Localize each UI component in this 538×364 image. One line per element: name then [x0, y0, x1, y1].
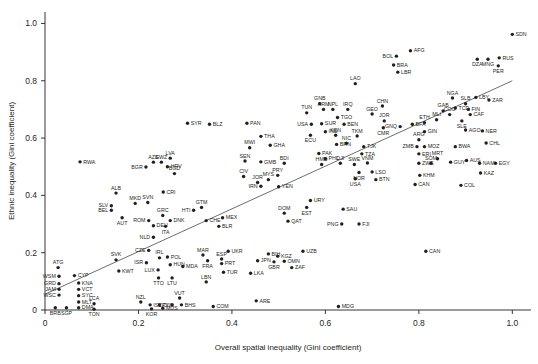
data-point [148, 303, 151, 306]
data-point [362, 145, 365, 148]
data-point-label: ALB [111, 185, 121, 191]
data-point [178, 296, 181, 299]
data-point-label: MEX [226, 214, 238, 220]
data-point [381, 104, 384, 107]
data-point [449, 160, 452, 163]
data-point [200, 206, 203, 209]
data-point-label: LBR [401, 69, 411, 75]
data-point-label: TTO [153, 280, 164, 286]
data-point-label: ATG [53, 259, 64, 265]
data-point-label: BLZ [213, 121, 223, 127]
data-point [147, 219, 150, 222]
data-point [320, 163, 323, 166]
data-point-label: NAM [483, 160, 495, 166]
data-point-label: UZB [306, 248, 317, 254]
x-tick-label: 1.0 [506, 318, 518, 328]
data-point [283, 211, 286, 214]
data-point [186, 121, 189, 124]
data-point-label: IRN [249, 183, 258, 189]
data-point [180, 303, 183, 306]
data-point [487, 98, 490, 101]
y-tick-label: 0 [32, 305, 37, 315]
data-point-label: SLB [461, 95, 471, 101]
data-point-label: CHL [489, 140, 500, 146]
data-point [208, 123, 211, 126]
data-point [222, 270, 225, 273]
data-point [340, 222, 343, 225]
data-point-label: HMD [316, 156, 328, 162]
data-point [220, 257, 223, 260]
data-point [454, 145, 457, 148]
data-point-label: NIC [342, 135, 351, 141]
data-point-label: ECU [305, 137, 316, 143]
data-point-label: BGD [169, 165, 181, 171]
data-point-label: PER [493, 68, 504, 74]
data-point [481, 129, 484, 132]
data-point-label: KHM [423, 172, 435, 178]
data-point-label: CAN [429, 248, 440, 254]
data-point-label: TON [89, 311, 100, 317]
data-point [370, 170, 373, 173]
data-point-label: BEN [347, 121, 358, 127]
data-point [336, 116, 339, 119]
data-point [272, 260, 275, 263]
data-point-label: BLR [222, 223, 232, 229]
data-point-label: RWA [83, 159, 96, 165]
data-point [355, 134, 358, 137]
data-point [476, 58, 479, 61]
x-tick-label: 0.2 [133, 318, 145, 328]
data-point-label: ROM [133, 217, 145, 223]
data-point-label: IRL [155, 249, 163, 255]
data-point-label: MOZ [428, 143, 441, 149]
data-point-label: ZAR [492, 97, 503, 103]
data-point [324, 130, 327, 133]
data-point-label: JPN [261, 257, 271, 263]
data-point-label: JOR [379, 112, 390, 118]
data-point [423, 145, 426, 148]
data-point-label: MNG [482, 61, 494, 67]
data-point-label: EST [302, 210, 313, 216]
y-axis-title: Ethnic inequality (Gini coefficient) [7, 102, 16, 220]
data-point [498, 56, 501, 59]
data-point-label: BHS [185, 302, 196, 308]
data-point [77, 306, 80, 309]
data-point-label: NER [486, 128, 497, 134]
data-point [464, 102, 467, 105]
data-point-label: GNQ [385, 123, 397, 129]
data-point [161, 214, 164, 217]
data-point [341, 207, 344, 210]
data-point [147, 249, 150, 252]
data-point [201, 253, 204, 256]
data-point [110, 209, 113, 212]
data-point-label: TUN [301, 104, 312, 110]
data-point [256, 259, 259, 262]
plot-svg: 00.20.40.60.81.000.20.40.60.81.0Overall … [0, 0, 538, 364]
data-point [417, 152, 420, 155]
data-point [331, 108, 334, 111]
data-point-label: EGY [499, 160, 511, 166]
data-point-label: SWE [348, 156, 361, 162]
data-point [286, 219, 289, 222]
y-tick-label: 0.6 [25, 133, 37, 143]
data-point-label: TUR [227, 269, 238, 275]
data-point-label: KWT [122, 268, 135, 274]
data-point-label: MWI [244, 139, 255, 145]
data-point-label: SAU [346, 206, 357, 212]
data-point [243, 159, 246, 162]
data-point [424, 250, 427, 253]
data-point [354, 177, 357, 180]
data-point-label: CYP [78, 272, 89, 278]
data-point [392, 63, 395, 66]
data-point-label: KNA [82, 280, 93, 286]
data-point [92, 307, 95, 310]
data-point [465, 159, 468, 162]
data-point [497, 64, 500, 67]
data-point-label: MDA [186, 263, 198, 269]
data-point-label: COL [464, 182, 475, 188]
data-point [166, 255, 169, 258]
data-point [212, 305, 215, 308]
data-point [145, 261, 148, 264]
data-point [267, 252, 270, 255]
data-point [57, 288, 60, 291]
data-point-label: SDN [516, 31, 527, 37]
